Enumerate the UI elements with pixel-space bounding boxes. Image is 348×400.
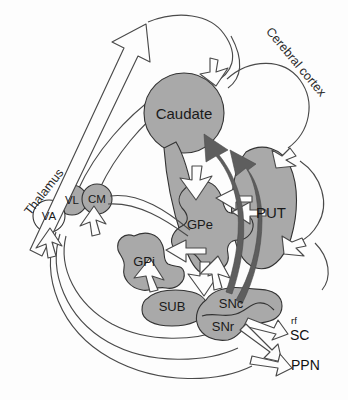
output-label-ppn: PPN [291, 357, 320, 373]
nucleus-label-put: PUT [256, 204, 286, 221]
nucleus-label-snr: SNr [212, 319, 235, 334]
output-label-rf: rf [291, 315, 297, 326]
nucleus-label-vl: VL [65, 194, 80, 206]
region-label-cerebral-cortex: Cerebral cortex [263, 25, 329, 100]
arrow-cortex-to-put-lower [282, 236, 306, 256]
cortex-curve-upper-right [227, 63, 309, 148]
output-label-sc: SC [290, 327, 309, 343]
cortex-curve-lower-right [315, 243, 328, 290]
diagram-canvas: Thalamus Cerebral cortex Caudate PUT GPe… [0, 0, 348, 400]
basal-ganglia-diagram: Thalamus Cerebral cortex Caudate PUT GPe… [0, 0, 348, 400]
nucleus-label-caudate: Caudate [156, 105, 213, 122]
nucleus-label-sub: SUB [159, 299, 186, 314]
nucleus-label-cm: CM [88, 193, 106, 205]
nucleus-label-gpe: GPe [187, 217, 213, 232]
nucleus-label-va: VA [42, 210, 57, 222]
nucleus-label-gpi: GPi [133, 254, 155, 269]
nucleus-label-snc: SNc [219, 296, 244, 311]
